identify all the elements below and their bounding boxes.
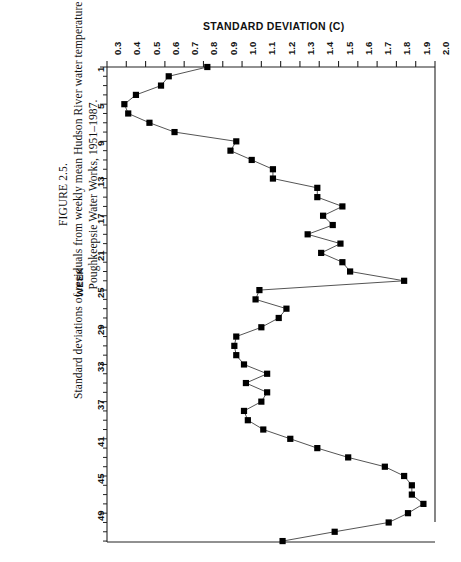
data-point-marker[interactable] [283,306,289,312]
x-axis-tick-label: 0.4 [131,42,142,55]
data-point-marker[interactable] [314,194,320,200]
data-point-marker[interactable] [345,454,351,460]
data-point-marker[interactable] [166,73,172,79]
x-axis-tick-label: 1.8 [401,42,412,55]
data-point-marker[interactable] [133,92,139,98]
y-axis-tick-label: 45 [95,473,106,484]
data-point-marker[interactable] [409,491,415,497]
data-point-marker[interactable] [245,417,251,423]
x-axis-tick-label: 1.5 [344,42,355,55]
data-point-marker[interactable] [252,296,258,302]
x-axis-tick-label: 1.1 [266,42,277,55]
y-axis-tick-label: 17 [95,213,106,224]
data-point-marker[interactable] [287,436,293,442]
data-point-marker[interactable] [420,501,426,507]
data-point-marker[interactable] [171,129,177,135]
x-axis-tick-label: 0.6 [170,42,181,55]
data-point-marker[interactable] [401,473,407,479]
y-axis-tick-label: 37 [95,399,106,410]
data-point-marker[interactable] [233,352,239,358]
data-point-marker[interactable] [241,408,247,414]
data-point-marker[interactable] [256,287,262,293]
data-point-marker[interactable] [401,278,407,284]
data-point-marker[interactable] [339,203,345,209]
x-axis-tick-label: 1.9 [421,42,432,55]
data-point-marker[interactable] [258,399,264,405]
x-axis-tick-label: 0.9 [228,42,239,55]
data-point-marker[interactable] [204,64,210,70]
data-point-marker[interactable] [264,389,270,395]
data-point-marker[interactable] [409,482,415,488]
data-point-marker[interactable] [330,222,336,228]
y-axis-tick-label: 13 [95,176,106,187]
data-point-marker[interactable] [386,519,392,525]
x-axis-tick-label: 1.3 [305,42,316,55]
y-axis-tick-label: 41 [95,436,106,447]
y-axis-tick-label: 21 [95,250,106,261]
x-axis-tick-label: 0.8 [208,42,219,55]
data-point-marker[interactable] [382,464,388,470]
x-axis-tick-label: 1.7 [382,42,393,55]
data-point-marker[interactable] [314,445,320,451]
data-point-marker[interactable] [318,250,324,256]
data-point-marker[interactable] [233,333,239,339]
data-point-marker[interactable] [347,268,353,274]
data-point-marker[interactable] [337,241,343,247]
data-point-marker[interactable] [231,343,237,349]
x-axis-tick-label: 1.0 [247,42,258,55]
data-point-marker[interactable] [233,138,239,144]
x-axis-tick-label: 2.0 [440,42,451,55]
x-axis-tick-label: 1.2 [286,42,297,55]
y-axis-tick-label: 33 [95,362,106,373]
data-point-marker[interactable] [332,529,338,535]
data-point-marker[interactable] [276,315,282,321]
data-point-marker[interactable] [241,361,247,367]
y-axis-tick-label: 25 [95,288,106,299]
data-point-marker[interactable] [258,324,264,330]
figure-page: FIGURE 2.5. Standard deviations of resid… [0,0,461,562]
x-axis-tick-label: 1.6 [363,42,374,55]
data-point-marker[interactable] [270,166,276,172]
y-axis-tick-label: 29 [95,325,106,336]
x-axis-tick-label: 0.7 [189,42,200,55]
data-point-marker[interactable] [260,426,266,432]
data-point-marker[interactable] [125,110,131,116]
data-point-marker[interactable] [264,371,270,377]
data-line [124,67,423,541]
data-point-marker[interactable] [227,148,233,154]
data-point-marker[interactable] [158,82,164,88]
x-axis-tick-label: 1.4 [324,42,335,55]
data-point-marker[interactable] [146,120,152,126]
data-point-marker[interactable] [405,510,411,516]
y-axis-tick-label: 49 [95,511,106,522]
data-point-marker[interactable] [339,259,345,265]
data-point-marker[interactable] [279,538,285,544]
data-point-marker[interactable] [314,185,320,191]
data-point-marker[interactable] [305,231,311,237]
y-axis-tick-label: 1 [95,67,106,72]
line-chart-plot [0,0,461,562]
data-point-marker[interactable] [243,380,249,386]
x-axis-tick-label: 0.3 [112,42,123,55]
y-axis-tick-label: 9 [95,141,106,146]
data-point-marker[interactable] [249,157,255,163]
data-point-marker[interactable] [270,175,276,181]
y-axis-tick-label: 5 [95,104,106,109]
data-point-marker[interactable] [121,101,127,107]
data-point-marker[interactable] [320,213,326,219]
x-axis-tick-label: 0.5 [151,42,162,55]
